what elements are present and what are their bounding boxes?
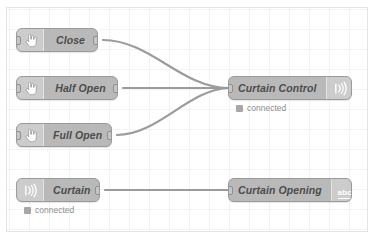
- status-dot-curtain-control: [236, 105, 243, 112]
- node-label-half-open: Half Open: [44, 77, 117, 99]
- input-port-curtain-control[interactable]: [228, 84, 233, 93]
- node-body-curtain[interactable]: Curtain: [16, 178, 100, 202]
- node-curtain-control[interactable]: Curtain Control: [228, 76, 352, 100]
- node-label-curtain-opening: Curtain Opening: [229, 179, 331, 201]
- node-label-full-open: Full Open: [44, 124, 111, 146]
- node-close[interactable]: Close: [16, 28, 98, 52]
- node-curtain[interactable]: Curtain: [16, 178, 100, 202]
- node-icon-full-open: [17, 124, 44, 146]
- inject-hand-icon: [23, 81, 38, 96]
- node-icon-half-open: [17, 77, 44, 99]
- node-label-curtain: Curtain: [44, 179, 99, 201]
- mqtt-signal-icon: [332, 81, 348, 96]
- input-port-curtain-opening[interactable]: [228, 186, 233, 195]
- node-icon-curtain: [17, 179, 44, 201]
- mqtt-signal-icon: [22, 183, 38, 198]
- node-body-curtain-control[interactable]: Curtain Control: [228, 76, 352, 100]
- output-port-full-open[interactable]: [107, 131, 112, 140]
- node-half-open[interactable]: Half Open: [16, 76, 118, 100]
- input-port-close[interactable]: [16, 36, 21, 45]
- node-icon-curtain-control: [326, 77, 353, 99]
- node-body-full-open[interactable]: Full Open: [16, 123, 112, 147]
- node-red-flow-editor: CloseHalf OpenFull OpenCurtainconnectedC…: [0, 0, 376, 239]
- status-badge-curtain: connected: [24, 205, 74, 215]
- node-icon-close: [17, 29, 44, 51]
- input-port-full-open[interactable]: [16, 131, 21, 140]
- node-curtain-opening[interactable]: Curtain Openingabc: [228, 178, 352, 202]
- wire-full-open-to-curtain-control[interactable]: [117, 88, 228, 135]
- status-dot-curtain: [24, 207, 31, 214]
- debug-abc-label: abc: [338, 188, 352, 199]
- node-body-curtain-opening[interactable]: Curtain Openingabc: [228, 178, 352, 202]
- debug-abc-icon: abc: [338, 181, 352, 199]
- status-text-curtain-control: connected: [247, 103, 286, 113]
- output-port-curtain[interactable]: [95, 186, 100, 195]
- node-label-close: Close: [44, 29, 97, 51]
- node-body-close[interactable]: Close: [16, 28, 98, 52]
- node-full-open[interactable]: Full Open: [16, 123, 112, 147]
- node-body-half-open[interactable]: Half Open: [16, 76, 118, 100]
- inject-hand-icon: [23, 128, 38, 143]
- inject-hand-icon: [23, 33, 38, 48]
- wire-close-to-curtain-control[interactable]: [103, 40, 228, 88]
- node-label-curtain-control: Curtain Control: [229, 77, 326, 99]
- output-port-close[interactable]: [93, 36, 98, 45]
- input-port-half-open[interactable]: [16, 84, 21, 93]
- status-badge-curtain-control: connected: [236, 103, 286, 113]
- node-icon-curtain-opening: abc: [331, 179, 352, 201]
- status-text-curtain: connected: [35, 205, 74, 215]
- output-port-half-open[interactable]: [113, 84, 118, 93]
